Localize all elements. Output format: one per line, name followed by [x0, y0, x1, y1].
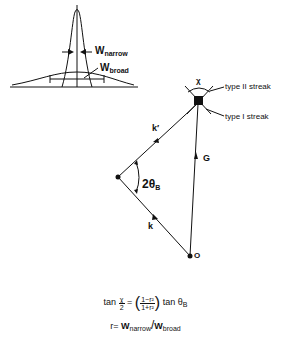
- formula-r-ratio: r= Wnarrow/Wbroad: [0, 318, 291, 332]
- k-label: k: [148, 222, 153, 231]
- formula-tan-chi: tan χ2 = (1−r²1+r²) tan θB: [0, 294, 291, 312]
- w-broad-label: Wbroad: [100, 63, 129, 74]
- angle-label: 2θB: [142, 178, 160, 191]
- chi-label: χ: [196, 77, 201, 85]
- origin-label: O: [194, 252, 200, 260]
- diagram-canvas: [0, 0, 291, 341]
- g-label: G: [203, 154, 210, 163]
- k-prime-label: k′: [152, 124, 159, 133]
- w-narrow-label: Wnarrow: [95, 46, 128, 57]
- type-1-streak-label: type I streak: [225, 113, 269, 121]
- type-2-streak-label: type II streak: [225, 83, 271, 91]
- ewald-vectors: [118, 86, 224, 256]
